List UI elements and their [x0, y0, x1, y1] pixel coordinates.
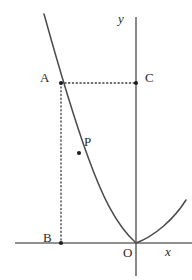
point-marker-b — [59, 241, 63, 245]
point-marker-a — [59, 81, 63, 85]
figure-canvas — [0, 0, 192, 280]
point-marker-p — [77, 151, 81, 155]
y-axis-label: y — [118, 12, 124, 25]
point-label-c: C — [145, 71, 154, 84]
x-axis-label: x — [165, 245, 171, 258]
point-label-b: B — [43, 231, 52, 244]
geometry-figure: A C P B O x y — [0, 0, 192, 280]
point-marker-c — [134, 81, 138, 85]
point-label-p: P — [84, 135, 91, 148]
parabola-curve — [44, 14, 186, 243]
point-label-a: A — [40, 71, 49, 84]
origin-label: O — [123, 246, 132, 259]
